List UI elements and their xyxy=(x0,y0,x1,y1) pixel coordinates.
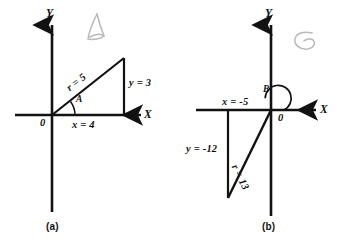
panel-b-origin-label: 0 xyxy=(278,113,283,124)
panel-b-angle-label: B xyxy=(263,85,270,95)
panel-b-vertical-leg-label: y = -12 xyxy=(186,144,217,155)
panel-b-caption: (b) xyxy=(262,222,275,232)
panel-a-vertical-leg-label: y = 3 xyxy=(129,78,151,89)
panel-b-x-axis-label: X xyxy=(320,104,328,116)
panel-b-axes xyxy=(196,25,316,216)
panel-a-handwritten-mark-icon xyxy=(84,12,112,44)
panel-a-origin-label: 0 xyxy=(40,118,45,129)
figure-canvas: Y X 0 A r = 5 y = 3 x = 4 (a) Y X 0 B x … xyxy=(0,0,346,244)
panel-a-x-axis-label: X xyxy=(144,109,152,121)
panel-a-angle-label: A xyxy=(76,95,83,105)
panel-b-horizontal-leg-label: x = -5 xyxy=(222,97,248,108)
panel-a-y-axis-label: Y xyxy=(46,8,53,20)
panel-a-caption: (a) xyxy=(46,222,59,232)
panel-a-angle-arc xyxy=(71,102,76,116)
panel-a-hypotenuse xyxy=(52,58,124,115)
panel-a-horizontal-leg-label: x = 4 xyxy=(72,120,95,131)
panel-a-triangle xyxy=(52,58,124,115)
panel-b-y-axis-label: Y xyxy=(265,8,272,20)
panel-b-handwritten-mark-icon xyxy=(292,30,318,52)
